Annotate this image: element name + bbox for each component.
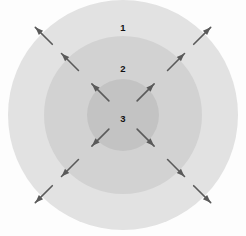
zone-2-label: 2 xyxy=(120,63,125,74)
concentric-zones-diagram: 1 2 3 xyxy=(0,0,246,236)
diagram-canvas: 1 2 3 xyxy=(0,0,246,236)
zone-3-label: 3 xyxy=(120,113,125,124)
zone-1-label: 1 xyxy=(120,22,126,33)
